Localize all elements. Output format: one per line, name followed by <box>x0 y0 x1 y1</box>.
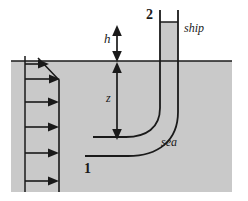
pipe-fluid-fill <box>160 22 178 62</box>
diagram-canvas <box>0 0 248 201</box>
siphon-diagram-figure: h z 1 2 ship sea <box>0 0 248 201</box>
station-label-1: 1 <box>84 162 91 176</box>
dimension-label-h: h <box>104 32 111 45</box>
h-arrowhead-up <box>112 25 122 36</box>
dimension-label-z: z <box>106 92 111 104</box>
sea-label: sea <box>161 136 177 148</box>
station-label-2: 2 <box>146 8 153 22</box>
dimension-h <box>112 25 122 62</box>
ship-label: ship <box>184 22 204 34</box>
